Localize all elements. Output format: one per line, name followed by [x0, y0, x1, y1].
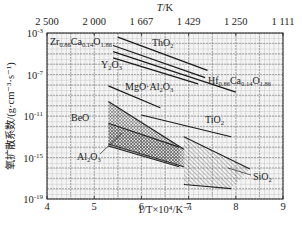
y-tick-label: 10-19 — [23, 193, 43, 205]
y-axis-ticks: 10-310-710-1110-1510-19 — [23, 27, 43, 205]
label-beo: BeO — [71, 112, 89, 123]
y-axis-label: 氧扩散系数/(g·cm⁻³·s⁻¹) — [4, 62, 17, 170]
x-tick-label: 9 — [280, 201, 285, 212]
x-tick-label: 5 — [92, 201, 97, 212]
y-tick-label: 10-11 — [23, 110, 43, 122]
top-tick-label: 1 111 — [272, 16, 295, 27]
top-tick-label: 1 667 — [130, 16, 154, 27]
top-tick-label: 1 429 — [177, 16, 201, 27]
y-tick-label: 10-7 — [27, 69, 44, 81]
top-tick-label: 2 500 — [35, 16, 59, 27]
x-axis-label: 1/T×10⁴/K⁻¹ — [138, 204, 192, 215]
x-tick-label: 8 — [233, 201, 238, 212]
label-mgo-al2o3: MgO·Al2O3 — [125, 81, 173, 93]
top-tick-label: 1 250 — [224, 16, 248, 27]
oxygen-diffusion-chart: 456789 2 5002 0001 6671 4291 2501 111 10… — [0, 0, 302, 228]
y-tick-label: 10-15 — [23, 152, 43, 164]
top-tick-label: 2 000 — [82, 16, 106, 27]
x-tick-label: 4 — [44, 201, 50, 212]
y-tick-label: 10-3 — [27, 27, 44, 39]
top-axis-label: T/K — [157, 2, 174, 13]
